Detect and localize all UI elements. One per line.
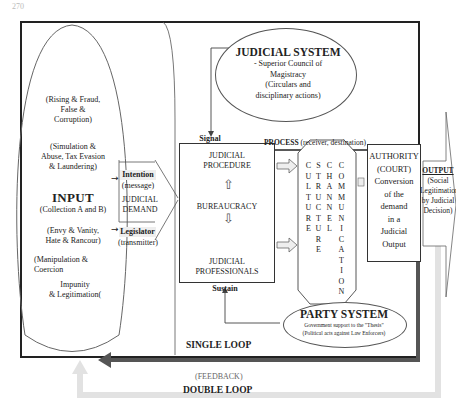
intention-label: Intention xyxy=(120,170,156,180)
authority-line: demand xyxy=(366,200,422,213)
input-item: (Envy & Vanity, xyxy=(30,226,116,236)
judicial-demand-line1: JUDICIAL xyxy=(120,195,160,205)
authority-line: AUTHORITY xyxy=(366,150,422,163)
transmitter-label: (transmitter) xyxy=(117,238,159,248)
judicial-demand-line2: DEMAND xyxy=(120,205,160,215)
input-item: Impunity xyxy=(40,280,110,290)
judicial-system-line: Magistracy xyxy=(218,70,358,81)
output-title: OUTPUT xyxy=(420,166,456,176)
input-item: False & xyxy=(30,105,116,115)
process-label: PROCESS xyxy=(264,138,299,147)
authority-line: Judicial xyxy=(366,225,422,238)
judicial-system-line: (Circulars and xyxy=(218,80,358,91)
feedback-label: (FEEDBACK) xyxy=(195,372,243,381)
input-item: (Rising & Fraud, xyxy=(30,95,116,105)
arrow-up-icon: ⇧ xyxy=(218,180,238,190)
divider-curve xyxy=(163,22,175,355)
output-line: Legitimation xyxy=(420,186,456,196)
svg-text:→: → xyxy=(111,173,119,183)
single-loop-arrowhead xyxy=(98,352,111,368)
single-loop-label: SINGLE LOOP xyxy=(186,340,251,350)
output-line: (Social xyxy=(420,176,456,186)
judicial-system-title: JUDICIAL SYSTEM xyxy=(218,46,358,59)
authority-line: Output xyxy=(366,238,422,251)
output-line: by Judicial xyxy=(420,196,456,206)
party-system-line: Government support to the "Thesis" xyxy=(283,321,405,329)
input-item: (Manipulation & xyxy=(34,255,88,265)
column-channel: CHANNEL xyxy=(325,161,334,235)
input-item: & Laundering) xyxy=(28,162,118,172)
message-label: (message) xyxy=(120,181,156,191)
legislator-label: Legislator xyxy=(119,227,156,237)
authority-line: Conversion xyxy=(366,175,422,188)
input-item: Hate & Rancour) xyxy=(30,236,116,246)
judicial-system-line: - Superior Council of xyxy=(218,59,358,70)
authority-line: in a xyxy=(366,213,422,226)
sustain-label: Sustain xyxy=(195,284,255,294)
arrow-down-icon: ⇩ xyxy=(218,214,238,224)
party-system-line: (Political acts against Law Enforcers) xyxy=(283,329,405,337)
authority-line: of the xyxy=(366,188,422,201)
input-item: Abuse, Tax Evasion xyxy=(28,152,118,162)
input-item: Corruption) xyxy=(30,115,116,125)
judicial-professionals-line2: PROFESSIONALS xyxy=(179,267,275,277)
judicial-system-line: disciplinary actions) xyxy=(218,91,358,102)
authority-line: (COURT) xyxy=(366,163,422,176)
judicial-professionals-line1: JUDICIAL xyxy=(179,257,275,267)
input-title: INPUT xyxy=(30,191,116,205)
double-loop-label: DOUBLE LOOP xyxy=(183,385,252,395)
input-item: Coercion xyxy=(34,265,88,275)
judicial-procedure-line2: PROCEDURE xyxy=(179,161,275,171)
process-header: PROCESS (receiver, destination) xyxy=(264,138,366,147)
output-line: Decision) xyxy=(420,206,456,216)
column-communication: COMMUNICATION xyxy=(337,161,346,298)
party-system-title: PARTY SYSTEM xyxy=(283,307,405,321)
input-collection: (Collection A and B) xyxy=(30,205,116,215)
input-item: (Simulation & xyxy=(28,142,118,152)
judicial-procedure-line1: JUDICIAL xyxy=(179,151,275,161)
process-sublabel: (receiver, destination) xyxy=(299,138,366,147)
input-ellipse xyxy=(17,25,128,352)
column-structure: STRUCTURE xyxy=(314,161,323,256)
column-culture: CULTURE xyxy=(304,161,313,235)
input-item: & Legitimation( xyxy=(40,290,110,300)
